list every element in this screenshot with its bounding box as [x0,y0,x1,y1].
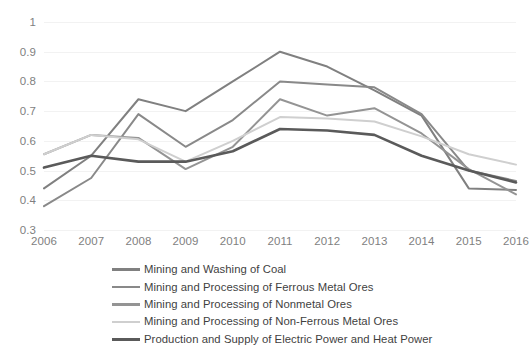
legend: Mining and Washing of CoalMining and Pro… [112,261,442,348]
y-axis-tick-label: 0.8 [20,75,36,87]
series-line [44,52,516,190]
legend-color-swatch [112,286,140,289]
x-axis-tick-label: 2010 [220,235,246,247]
y-axis-tick-label: 0.4 [20,194,36,206]
x-axis-tick-label: 2011 [267,235,292,247]
legend-item[interactable]: Production and Supply of Electric Power … [112,331,442,348]
y-axis-tick-label: 0.9 [20,46,36,58]
x-axis-tick-label: 2016 [503,235,529,247]
x-axis-tick-label: 2012 [314,235,340,247]
series-lines [44,22,516,230]
x-axis-tick-label: 2007 [78,235,104,247]
x-axis-tick-label: 2009 [173,235,199,247]
y-axis-tick-label: 0.5 [20,165,36,177]
legend-item-label: Production and Supply of Electric Power … [144,333,432,346]
legend-item-label: Mining and Processing of Nonmetal Ores [144,298,352,311]
legend-color-swatch [112,303,140,306]
y-axis-tick-label: 0.7 [20,105,36,117]
x-axis-tick-labels: 2006200720082009201020112012201320142015… [44,232,516,252]
legend-item-label: Mining and Processing of Non-Ferrous Met… [144,315,398,328]
legend-color-swatch [112,268,140,271]
legend-item-label: Mining and Processing of Ferrous Metal O… [144,281,373,294]
x-axis-tick-label: 2015 [456,235,482,247]
legend-item-label: Mining and Washing of Coal [144,263,286,276]
legend-item[interactable]: Mining and Processing of Nonmetal Ores [112,296,442,313]
legend-item[interactable]: Mining and Washing of Coal [112,261,442,278]
x-axis-tick-label: 2013 [361,235,387,247]
plot-area [44,22,516,230]
gridline [44,230,516,231]
legend-color-swatch [112,321,140,324]
y-axis-tick-label: 1 [30,16,37,28]
legend-item[interactable]: Mining and Processing of Ferrous Metal O… [112,278,442,295]
x-axis-tick-label: 2006 [31,235,57,247]
x-axis-tick-label: 2008 [125,235,151,247]
legend-item[interactable]: Mining and Processing of Non-Ferrous Met… [112,313,442,330]
x-axis-tick-label: 2014 [409,235,435,247]
legend-color-swatch [112,338,140,341]
y-axis-tick-labels: 0.30.40.50.60.70.80.91 [0,0,44,230]
y-axis-tick-label: 0.6 [20,135,36,147]
